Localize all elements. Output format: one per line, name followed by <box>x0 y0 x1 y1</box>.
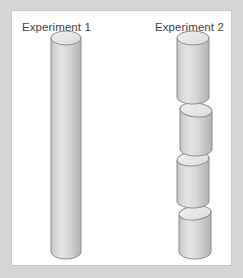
experiment-2-segment-1-top-cap <box>177 31 209 45</box>
experiment-2-segment-1-body <box>177 38 209 104</box>
experiment-2-segment-3 <box>177 151 210 208</box>
experiment-1-top-cap <box>51 31 81 45</box>
figure-root: Experiment 1 Experiment 2 <box>0 0 243 278</box>
experiment-2-segment-2 <box>179 102 212 156</box>
experiment-2-segment-4 <box>178 204 211 259</box>
cylinder-diagram-stage <box>11 10 232 266</box>
experiment-1-cylinder <box>51 31 81 259</box>
experiment-1-body <box>51 38 81 259</box>
experiment-2-segment-1 <box>177 31 209 104</box>
